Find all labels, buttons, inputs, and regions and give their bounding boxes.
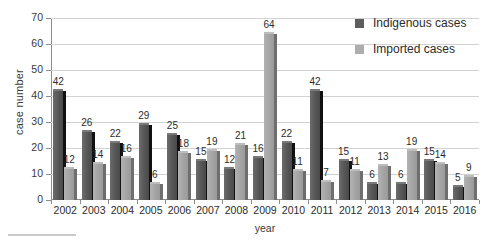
- bar-top: [453, 185, 463, 187]
- x-axis-label-2006: 2006: [165, 204, 194, 216]
- y-axis-tick-label: 60: [19, 37, 43, 49]
- bar-value-label: 9: [459, 163, 479, 173]
- bar-value-label: 14: [430, 150, 450, 160]
- bar-2002-imported[interactable]: [64, 169, 74, 200]
- bar-face: [235, 145, 245, 200]
- bar-side: [417, 151, 420, 200]
- bar-side: [303, 171, 306, 200]
- bar-top: [435, 162, 445, 164]
- bar-face: [453, 187, 463, 200]
- bar-value-label: 42: [305, 77, 325, 87]
- legend-swatch-icon-indigenous: [355, 19, 364, 28]
- bar-2011-imported[interactable]: [321, 182, 331, 200]
- bar-2007-imported[interactable]: [207, 151, 217, 200]
- x-axis-label-2016: 2016: [450, 204, 479, 216]
- bar-face: [139, 125, 149, 200]
- bar-top: [350, 169, 360, 171]
- bar-side: [474, 177, 477, 200]
- bar-top: [53, 89, 63, 91]
- bar-value-label: 42: [48, 77, 68, 87]
- x-axis-label-2008: 2008: [222, 204, 251, 216]
- bar-side: [274, 34, 277, 200]
- bottom-rule: [8, 234, 76, 236]
- bar-top: [310, 89, 320, 91]
- bar-2015-indigenous[interactable]: [424, 161, 434, 200]
- bar-2009-imported[interactable]: [264, 34, 274, 200]
- bar-2003-indigenous[interactable]: [82, 132, 92, 200]
- bar-value-label: 7: [316, 168, 336, 178]
- bar-value-label: 14: [88, 150, 108, 160]
- bar-side: [331, 182, 334, 200]
- bar-top: [207, 149, 217, 151]
- bar-group: 296: [139, 18, 163, 200]
- legend-item-indigenous[interactable]: Indigenous cases: [355, 16, 466, 30]
- bar-2005-imported[interactable]: [150, 184, 160, 200]
- legend-label-imported: Imported cases: [373, 42, 455, 56]
- bar-top: [64, 167, 74, 169]
- bar-value-label: 21: [230, 131, 250, 141]
- bar-top: [253, 156, 263, 158]
- x-axis-label-2011: 2011: [308, 204, 337, 216]
- bar-2002-indigenous[interactable]: [53, 91, 63, 200]
- bar-group: 1519: [196, 18, 220, 200]
- x-axis-title: year: [51, 222, 479, 234]
- bar-value-label: 19: [202, 137, 222, 147]
- y-axis-tick-label: 30: [19, 115, 43, 127]
- bar-top: [224, 167, 234, 169]
- bar-face: [350, 171, 360, 200]
- bar-top: [464, 175, 474, 177]
- bar-2016-indigenous[interactable]: [453, 187, 463, 200]
- bar-2012-imported[interactable]: [350, 171, 360, 200]
- bar-value-label: 25: [162, 121, 182, 131]
- bar-2013-imported[interactable]: [378, 166, 388, 200]
- bar-2008-indigenous[interactable]: [224, 169, 234, 200]
- bar-face: [64, 169, 74, 200]
- bar-side: [74, 169, 77, 200]
- bar-face: [396, 184, 406, 200]
- bar-2006-imported[interactable]: [178, 153, 188, 200]
- legend-swatch-icon-imported: [355, 45, 364, 54]
- bar-group: 1664: [253, 18, 277, 200]
- bar-group: 2614: [82, 18, 106, 200]
- x-axis-ticks: 2002200320042005200620072008200920102011…: [51, 200, 479, 220]
- bar-face: [264, 34, 274, 200]
- bar-face: [321, 182, 331, 200]
- legend-item-imported[interactable]: Imported cases: [355, 42, 466, 56]
- bar-top: [82, 130, 92, 132]
- bar-2010-imported[interactable]: [293, 171, 303, 200]
- bar-2014-indigenous[interactable]: [396, 184, 406, 200]
- bar-2016-imported[interactable]: [464, 177, 474, 200]
- bar-face: [407, 151, 417, 200]
- bar-side: [131, 158, 134, 200]
- bar-2013-indigenous[interactable]: [367, 184, 377, 200]
- bar-2014-imported[interactable]: [407, 151, 417, 200]
- x-axis-tick: [479, 200, 480, 204]
- bar-2011-indigenous[interactable]: [310, 91, 320, 200]
- bar-2009-indigenous[interactable]: [253, 158, 263, 200]
- bar-2015-imported[interactable]: [435, 164, 445, 200]
- bar-group: 427: [310, 18, 334, 200]
- bar-top: [407, 149, 417, 151]
- bar-2005-indigenous[interactable]: [139, 125, 149, 200]
- bar-value-label: 64: [259, 20, 279, 30]
- bar-side: [188, 153, 191, 200]
- y-axis-tick-label: 70: [19, 11, 43, 23]
- bar-2008-imported[interactable]: [235, 145, 245, 200]
- bar-face: [253, 158, 263, 200]
- bar-face: [53, 91, 63, 200]
- bar-face: [367, 184, 377, 200]
- chart-legend: Indigenous cases Imported cases: [355, 16, 466, 68]
- y-axis-tick-label: 50: [19, 63, 43, 75]
- bar-group: 1221: [224, 18, 248, 200]
- bar-face: [435, 164, 445, 200]
- bar-2003-imported[interactable]: [93, 164, 103, 200]
- bar-top: [150, 182, 160, 184]
- bar-value-label: 11: [288, 157, 308, 167]
- x-axis-label-2005: 2005: [137, 204, 166, 216]
- bar-top: [293, 169, 303, 171]
- bar-group: 2211: [282, 18, 306, 200]
- bar-2004-imported[interactable]: [121, 158, 131, 200]
- bar-2007-indigenous[interactable]: [196, 161, 206, 200]
- chart-container: case number 010203040506070 421226142216…: [0, 0, 489, 244]
- bar-2010-indigenous[interactable]: [282, 143, 292, 200]
